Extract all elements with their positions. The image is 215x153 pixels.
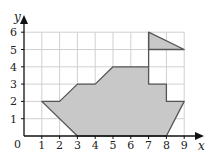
x-tick-label: 4 <box>92 139 99 152</box>
x-axis-label: x <box>198 139 205 153</box>
origin-label: 0 <box>14 138 21 151</box>
x-tick-label: 1 <box>38 139 45 152</box>
coordinate-grid-diagram: 123456789123456 x y 0 <box>0 0 215 153</box>
x-tick-label: 5 <box>110 139 117 152</box>
x-tick-label: 6 <box>127 139 134 152</box>
y-tick-label: 6 <box>10 26 17 39</box>
y-tick-label: 1 <box>10 113 17 126</box>
y-axis-label: y <box>13 10 21 24</box>
boat-hull <box>42 67 184 136</box>
x-tick-label: 3 <box>74 139 81 152</box>
x-tick-label: 7 <box>145 139 152 152</box>
y-tick-label: 3 <box>10 78 17 91</box>
y-tick-label: 2 <box>10 95 17 108</box>
y-tick-label: 4 <box>10 61 17 74</box>
y-tick-label: 5 <box>10 44 17 57</box>
x-tick-label: 9 <box>181 139 188 152</box>
y-axis-arrow-icon <box>20 15 28 24</box>
x-tick-label: 2 <box>56 139 63 152</box>
x-tick-label: 8 <box>163 139 170 152</box>
